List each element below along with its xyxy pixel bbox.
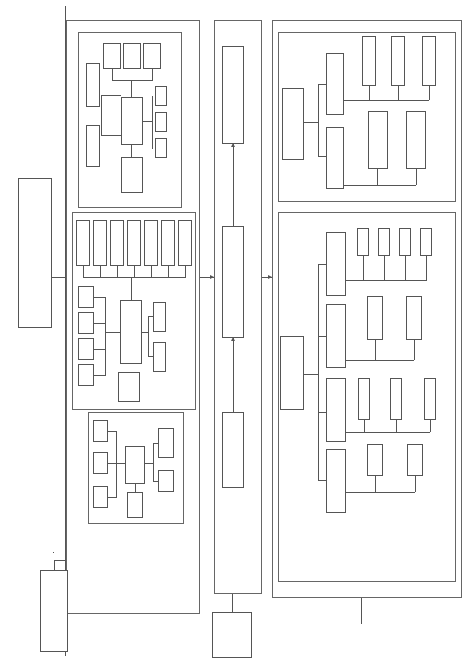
river-box-4 [78,286,94,308]
connector [384,256,385,280]
connector [152,69,153,80]
connector [108,497,116,498]
connector [101,135,121,136]
connector [364,420,365,432]
connector [318,156,326,157]
model-box [121,97,143,145]
restoration-item-3 [422,36,436,86]
connector [101,95,121,96]
connector [94,323,105,324]
agency-box-3 [93,486,108,508]
sediment-test-box [153,342,166,372]
industrial-item-2 [390,378,402,420]
connector [346,280,427,281]
connector [94,297,105,298]
connector [101,95,102,136]
connector [153,443,158,444]
connector [344,185,416,186]
connector [344,100,429,101]
restoration-item-2 [391,36,405,86]
connector [168,266,169,277]
restoration-item-1 [362,36,376,86]
connector [369,86,370,100]
title-box [18,178,52,328]
output-box-1 [103,43,121,69]
flowchart-diagram [0,0,474,664]
connector [363,256,364,280]
survey-item-1 [76,220,90,266]
domestic-box [326,449,346,513]
nonpoint-item-4 [420,228,432,256]
source-point-box [155,138,167,158]
stage2-box [212,612,252,658]
connector [318,84,326,85]
connector [377,169,378,185]
connector [361,598,362,624]
survey-item-3 [110,220,124,266]
internal-item-1 [367,296,383,340]
connector [151,266,152,277]
industrial-item-1 [358,378,370,420]
connector [346,360,414,361]
connector [116,431,117,498]
domestic-item-1 [367,444,383,476]
river-box-1 [78,364,94,386]
connector [346,432,430,433]
connector [415,476,416,492]
connector [153,481,158,482]
connector [105,297,106,376]
industrial-item-3 [424,378,436,420]
source-internal-box [155,112,167,132]
connector [346,492,415,493]
connector [145,463,153,464]
connector [426,256,427,280]
hydro-item-1 [368,111,388,169]
connector [83,277,186,278]
connector [148,316,153,317]
river-restoration-box [326,53,344,115]
field-survey-box [120,300,142,364]
arrow-up-icon [231,143,235,147]
river-box-2 [78,338,94,360]
survey-item-6 [161,220,175,266]
survey-item-2 [93,220,107,266]
output-box-2 [123,43,141,69]
connector [148,316,149,357]
connector [233,338,234,412]
connector [153,443,154,482]
stage1-box [40,570,68,652]
arrow-up-icon [231,337,235,341]
connector [398,86,399,100]
capacity-calc-box [222,412,244,488]
allocation-box [222,46,244,144]
capacity-improvement-box [282,88,304,160]
connector [134,266,135,277]
connector [131,80,132,97]
section-survey-box [118,372,140,402]
connector [83,266,84,277]
connector [396,420,397,432]
connector [318,264,319,480]
connector [304,122,318,123]
agency-box-6 [158,470,174,492]
connector [405,256,406,280]
data-collection-box [125,446,145,484]
connector [131,277,132,300]
nonpoint-item-2 [378,228,390,256]
agency-box-2 [93,452,108,474]
survey-item-5 [144,220,158,266]
connector [117,266,118,277]
connector [112,69,113,80]
hydrodynamic-box [326,127,344,189]
connector [430,420,431,432]
internal-item-2 [406,296,422,340]
river-box-3 [78,312,94,334]
water-test-box [153,302,166,332]
internal-box [326,304,346,368]
connector [416,169,417,185]
nonpoint-item-1 [357,228,369,256]
connector [414,340,415,360]
connector [152,96,153,149]
connector [143,121,152,122]
industrial-box [326,378,346,442]
